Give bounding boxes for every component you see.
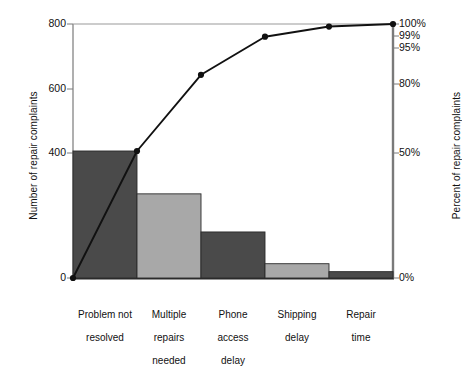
bar-series (73, 151, 393, 278)
bar-4[interactable] (265, 264, 329, 278)
x-axis-category-label-4: Shipping delay (265, 297, 329, 355)
category-line-3: delay (201, 355, 265, 367)
category-line-1: Multiple (137, 309, 201, 321)
cumulative-point-4[interactable] (262, 34, 268, 40)
category-line-3: needed (137, 355, 201, 367)
category-line-1: Repair (329, 309, 393, 321)
category-line-2: resolved (73, 332, 137, 344)
x-axis-category-label-2: Multiple repairs needed (137, 297, 201, 370)
cumulative-point-2[interactable] (134, 148, 140, 154)
x-axis-category-label-5: Repair time (329, 297, 393, 355)
category-line-2: repairs (137, 332, 201, 344)
cumulative-point-1[interactable] (70, 275, 76, 281)
x-axis-category-label-1: Problem not resolved (73, 297, 137, 355)
cumulative-point-6[interactable] (390, 21, 396, 27)
x-axis-category-label-3: Phone access delay (201, 297, 265, 370)
bar-3[interactable] (201, 232, 265, 278)
category-line-2: delay (265, 332, 329, 344)
y-axis-right-title: Percent of repair complaints (451, 61, 462, 251)
category-line-1: Shipping (265, 309, 329, 321)
cumulative-point-3[interactable] (198, 72, 204, 78)
category-line-1: Phone (201, 309, 265, 321)
bar-5[interactable] (329, 272, 393, 278)
category-line-2: time (329, 332, 393, 344)
category-line-2: access (201, 332, 265, 344)
category-line-1: Problem not (73, 309, 137, 321)
bar-2[interactable] (137, 194, 201, 278)
cumulative-point-5[interactable] (326, 23, 332, 29)
